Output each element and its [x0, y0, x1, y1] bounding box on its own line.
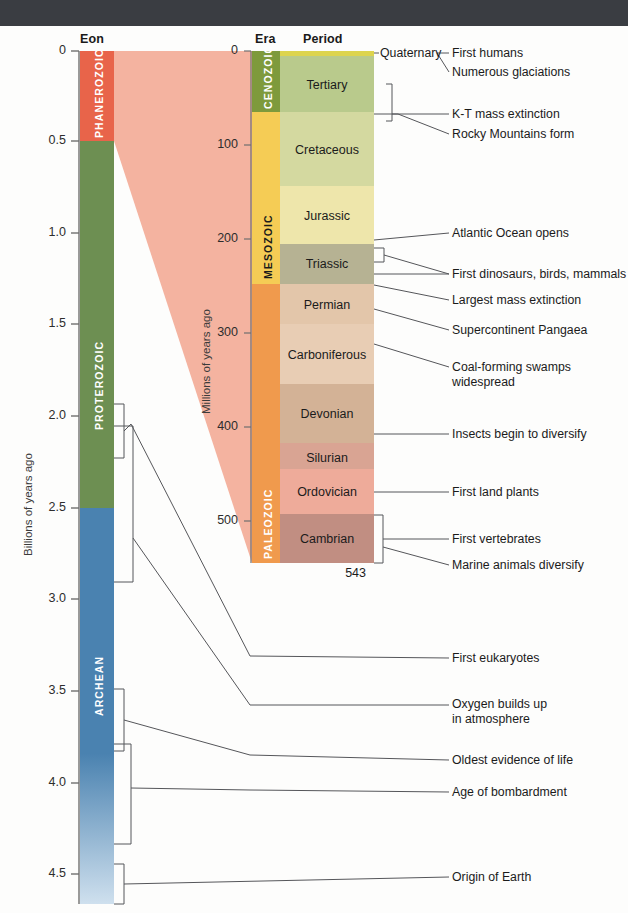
- annot-first-humans: First humans: [452, 46, 523, 61]
- diagram-stage: PHANEROZOIC PROTEROZOIC ARCHEAN CENOZOIC…: [0, 26, 628, 913]
- right-tick-100: 100: [200, 137, 238, 151]
- annot-marine-animals-diversify: Marine animals diversify: [452, 558, 584, 573]
- annot-insects-diversify: Insects begin to diversify: [452, 427, 587, 442]
- period-boundary-543: 543: [294, 566, 366, 580]
- period-name-silurian: Silurian: [280, 451, 374, 465]
- annot-oldest-evidence-of-life: Oldest evidence of life: [452, 753, 573, 768]
- annot-quaternary: Quaternary: [380, 46, 442, 61]
- left-tick-1-5: 1.5: [28, 316, 66, 330]
- annot-kt-mass-extinction: K-T mass extinction: [452, 107, 560, 122]
- period-name-tertiary: Tertiary: [280, 78, 374, 92]
- annot-atlantic-ocean-opens: Atlantic Ocean opens: [452, 226, 569, 241]
- header-period: Period: [303, 32, 343, 46]
- left-tick-2-0: 2.0: [28, 408, 66, 422]
- eon-label-phanerozoic: PHANEROZOIC: [93, 48, 105, 138]
- period-name-cambrian: Cambrian: [280, 532, 374, 546]
- annot-coal-forming-swamps: Coal-forming swamps: [452, 360, 571, 375]
- left-tick-4-5: 4.5: [28, 866, 66, 880]
- era-label-cenozoic: CENOZOIC: [262, 45, 274, 109]
- header-era: Era: [255, 32, 275, 46]
- period-name-jurassic: Jurassic: [280, 209, 374, 223]
- right-tick-0: 0: [200, 43, 238, 57]
- eon-label-archean: ARCHEAN: [93, 656, 105, 716]
- left-tick-3-0: 3.0: [28, 591, 66, 605]
- annot-supercontinent-pangaea: Supercontinent Pangaea: [452, 323, 587, 338]
- annot-first-land-plants: First land plants: [452, 485, 539, 500]
- period-name-cretaceous: Cretaceous: [280, 143, 374, 157]
- annot-first-eukaryotes: First eukaryotes: [452, 651, 539, 666]
- left-tick-3-5: 3.5: [28, 683, 66, 697]
- period-name-devonian: Devonian: [280, 407, 374, 421]
- eon-band-proterozoic: [80, 141, 114, 508]
- annot-numerous-glaciations: Numerous glaciations: [452, 65, 570, 80]
- leader-lines: [374, 53, 449, 565]
- annot-first-dinosaurs: First dinosaurs, birds, mammals: [452, 267, 626, 282]
- left-axis-ticks: [71, 51, 79, 874]
- annot-oxygen-builds-up-2: in atmosphere: [452, 712, 530, 727]
- left-tick-0-5: 0.5: [28, 133, 66, 147]
- eon-label-proterozoic: PROTEROZOIC: [93, 341, 105, 430]
- top-dark-band: [0, 0, 628, 26]
- period-name-triassic: Triassic: [280, 257, 374, 271]
- right-tick-200: 200: [200, 231, 238, 245]
- annot-oxygen-builds-up: Oxygen builds up: [452, 697, 547, 712]
- left-tick-0: 0: [28, 43, 66, 57]
- annot-origin-of-earth: Origin of Earth: [452, 870, 531, 885]
- right-tick-500: 500: [200, 513, 238, 527]
- era-label-paleozoic: PALEOZOIC: [262, 489, 274, 559]
- header-eon: Eon: [80, 32, 104, 46]
- era-label-mesozoic: MESOZOIC: [262, 214, 274, 279]
- annot-largest-mass-extinction: Largest mass extinction: [452, 293, 581, 308]
- annot-first-vertebrates: First vertebrates: [452, 532, 541, 547]
- annot-age-of-bombardment: Age of bombardment: [452, 785, 567, 800]
- expansion-wedge: [114, 51, 252, 563]
- period-name-permian: Permian: [280, 298, 374, 312]
- left-tick-1-0: 1.0: [28, 225, 66, 239]
- right-axis-title: Millions of years ago: [200, 309, 212, 414]
- left-axis-title: Billions of years ago: [22, 453, 34, 556]
- annot-rocky-mountains-form: Rocky Mountains form: [452, 127, 574, 142]
- annot-coal-forming-swamps-2: widespread: [452, 375, 515, 390]
- period-name-carboniferous: Carboniferous: [280, 348, 374, 362]
- left-tick-4-0: 4.0: [28, 775, 66, 789]
- period-name-ordovician: Ordovician: [280, 485, 374, 499]
- right-tick-400: 400: [200, 419, 238, 433]
- figure-root: PHANEROZOIC PROTEROZOIC ARCHEAN CENOZOIC…: [0, 0, 628, 913]
